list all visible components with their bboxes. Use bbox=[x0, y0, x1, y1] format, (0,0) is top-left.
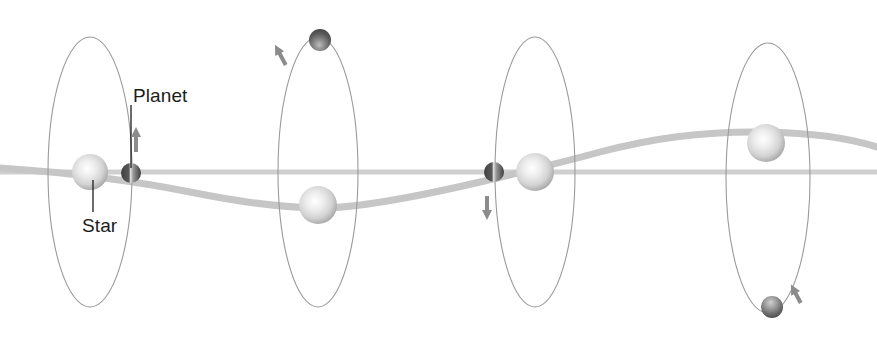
star-sphere-1 bbox=[72, 154, 108, 190]
orbit-group-2 bbox=[271, 29, 358, 307]
planet-sphere-3 bbox=[484, 162, 504, 182]
orbit-ellipse-4 bbox=[726, 43, 810, 313]
planet-sphere-4 bbox=[761, 296, 783, 318]
star-sphere-3 bbox=[516, 153, 554, 191]
orbit-wobble-illustration bbox=[0, 0, 877, 345]
star-sphere-2 bbox=[299, 186, 337, 224]
star-sphere-4 bbox=[747, 124, 785, 162]
motion-arrow-up-icon bbox=[131, 127, 141, 152]
orbit-group-4 bbox=[726, 43, 810, 318]
diagram-canvas: Planet Star bbox=[0, 0, 877, 345]
planet-label: Planet bbox=[133, 86, 187, 105]
star-label: Star bbox=[82, 216, 117, 235]
planet-sphere-2 bbox=[309, 29, 331, 51]
motion-arrow-diagonal-left-icon bbox=[271, 42, 291, 67]
motion-arrow-down-icon bbox=[482, 196, 492, 220]
